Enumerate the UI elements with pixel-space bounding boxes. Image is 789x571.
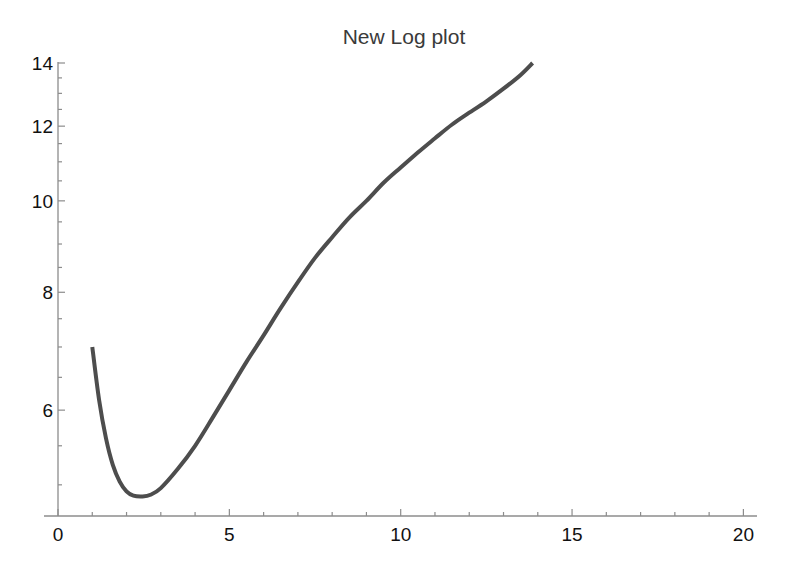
y-tick-label: 8	[42, 282, 53, 303]
y-axis-ticks	[58, 63, 65, 485]
y-tick-label: 6	[42, 400, 53, 421]
x-tick-label: 0	[53, 524, 64, 545]
x-tick-label: 5	[224, 524, 235, 545]
chart-title: New Log plot	[343, 25, 466, 48]
y-tick-label: 14	[32, 53, 54, 74]
y-tick-label: 12	[32, 116, 53, 137]
axes	[44, 62, 757, 516]
x-axis-tick-labels: 05101520	[53, 524, 754, 545]
data-series-curve	[92, 63, 532, 497]
x-tick-label: 10	[390, 524, 411, 545]
x-axis-ticks	[58, 509, 743, 516]
x-tick-label: 20	[733, 524, 754, 545]
y-axis-tick-labels: 68101214	[32, 53, 54, 421]
x-tick-label: 15	[561, 524, 582, 545]
y-tick-label: 10	[32, 191, 53, 212]
log-plot-chart: New Log plot 05101520 68101214	[0, 0, 789, 571]
